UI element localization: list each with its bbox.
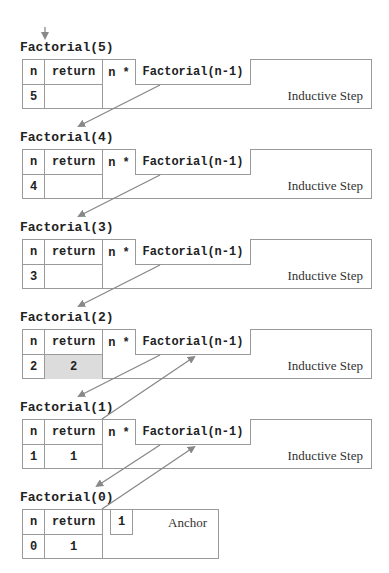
inductive-step-label: Inductive Step [288, 358, 363, 374]
stack-frame-factorial-2: n return 2 2 n * Factorial(n-1) Inductiv… [22, 329, 372, 379]
header-n: n [23, 420, 45, 445]
frame-title-factorial-3: Factorial(3) [20, 220, 114, 235]
frame-title-factorial-5: Factorial(5) [20, 40, 114, 55]
header-n: n [23, 240, 45, 265]
value-return [45, 175, 103, 199]
inductive-step-label: Inductive Step [288, 448, 363, 464]
header-return: return [45, 330, 103, 355]
value-n: 0 [23, 535, 45, 559]
n-multiply-label: n * [103, 60, 135, 85]
value-return: 1 [45, 445, 103, 469]
anchor-value-box: 1 [110, 509, 133, 535]
value-n: 2 [23, 355, 45, 379]
frame-title-factorial-1: Factorial(1) [20, 400, 114, 415]
recursive-call-box: Factorial(n-1) [135, 329, 251, 355]
header-return: return [45, 420, 103, 445]
stack-frame-factorial-0: n return 0 1 1 Anchor [22, 509, 219, 559]
value-n: 3 [23, 265, 45, 289]
header-return: return [45, 150, 103, 175]
header-n: n [23, 510, 45, 535]
value-n: 4 [23, 175, 45, 199]
value-return-highlighted: 2 [45, 355, 103, 379]
header-return: return [45, 60, 103, 85]
header-n: n [23, 330, 45, 355]
n-multiply-label: n * [103, 240, 135, 265]
header-return: return [45, 240, 103, 265]
frame-title-factorial-0: Factorial(0) [20, 490, 114, 505]
header-return: return [45, 510, 103, 535]
frame-title-factorial-2: Factorial(2) [20, 310, 114, 325]
recursive-call-box: Factorial(n-1) [135, 59, 251, 85]
value-return [45, 265, 103, 289]
value-return: 1 [45, 535, 103, 559]
n-multiply-label: n * [103, 150, 135, 175]
value-return [45, 85, 103, 109]
stack-frame-factorial-4: n return 4 n * Factorial(n-1) Inductive … [22, 149, 372, 199]
recursive-call-box: Factorial(n-1) [135, 419, 251, 445]
n-multiply-label: n * [103, 330, 135, 355]
value-n: 1 [23, 445, 45, 469]
inductive-step-label: Inductive Step [288, 88, 363, 104]
recursive-call-box: Factorial(n-1) [135, 239, 251, 265]
stack-frame-factorial-1: n return 1 1 n * Factorial(n-1) Inductiv… [22, 419, 372, 469]
recursive-call-box: Factorial(n-1) [135, 149, 251, 175]
stack-frame-factorial-3: n return 3 n * Factorial(n-1) Inductive … [22, 239, 372, 289]
stack-frame-factorial-5: n return 5 n * Factorial(n-1) Inductive … [22, 59, 372, 109]
inductive-step-label: Inductive Step [288, 178, 363, 194]
value-n: 5 [23, 85, 45, 109]
anchor-label: Anchor [168, 510, 207, 535]
frame-title-factorial-4: Factorial(4) [20, 130, 114, 145]
header-n: n [23, 60, 45, 85]
n-multiply-label: n * [103, 420, 135, 445]
inductive-step-label: Inductive Step [288, 268, 363, 284]
header-n: n [23, 150, 45, 175]
